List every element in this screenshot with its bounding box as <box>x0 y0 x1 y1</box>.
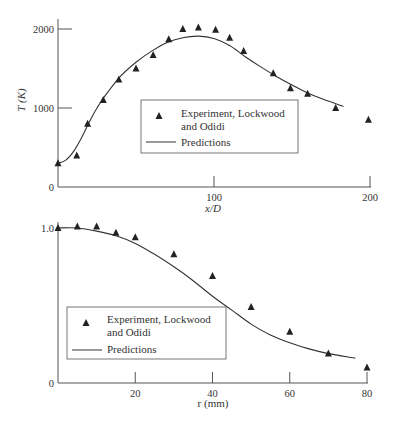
bottom-legend-experiment-line1: Experiment, Lockwood <box>107 313 211 325</box>
y-tick-label: 1000 <box>33 103 54 114</box>
triangle-marker-icon <box>365 116 372 123</box>
triangle-marker-icon <box>100 96 107 103</box>
triangle-marker-icon <box>170 250 177 257</box>
x-tick-label: 20 <box>130 388 141 399</box>
triangle-marker-icon <box>179 25 186 32</box>
x-tick-label: 200 <box>362 192 378 203</box>
triangle-marker-icon <box>248 303 255 310</box>
triangle-marker-icon <box>73 151 80 158</box>
top-legend-experiment-line2: and Odidi <box>181 120 225 132</box>
radial-profile-chart: 2040608001.0 r (mm) Experiment, Lockwood… <box>41 222 372 410</box>
top-x-axis-title: x/D <box>204 202 221 214</box>
triangle-marker-icon <box>74 222 81 229</box>
top-legend-predictions: Predictions <box>181 136 231 148</box>
bottom-x-axis-title: r (mm) <box>198 397 229 410</box>
triangle-marker-icon <box>133 65 140 72</box>
top-y-axis-title: T (K) <box>15 88 28 112</box>
triangle-marker-icon <box>112 229 119 236</box>
triangle-marker-icon <box>209 272 216 279</box>
y-tick-label: 0 <box>49 378 54 389</box>
figure: 100200010002000 T (K) x/D Experiment, Lo… <box>0 0 393 429</box>
y-tick-label: 0 <box>49 182 54 193</box>
x-tick-label: 60 <box>285 388 296 399</box>
triangle-marker-icon <box>304 90 311 97</box>
triangle-marker-icon <box>132 233 139 240</box>
triangle-marker-icon <box>165 35 172 42</box>
triangle-marker-icon <box>364 364 371 371</box>
triangle-marker-icon <box>226 34 233 41</box>
triangle-marker-icon <box>212 26 219 33</box>
triangle-marker-icon <box>286 328 293 335</box>
triangle-marker-icon <box>240 47 247 54</box>
bottom-legend-experiment-line2: and Odidi <box>107 326 151 338</box>
triangle-marker-icon <box>115 76 122 83</box>
top-legend: Experiment, Lockwood and Odidi Predictio… <box>141 100 298 153</box>
y-tick-label: 2000 <box>33 24 54 35</box>
x-tick-label: 80 <box>362 388 373 399</box>
y-tick-label: 1.0 <box>41 223 54 234</box>
top-legend-experiment-line1: Experiment, Lockwood <box>181 107 285 119</box>
temperature-chart: 100200010002000 T (K) x/D Experiment, Lo… <box>15 19 378 214</box>
triangle-marker-icon <box>93 222 100 229</box>
triangle-marker-icon <box>195 23 202 30</box>
bottom-legend: Experiment, Lockwood and Odidi Predictio… <box>67 307 226 359</box>
bottom-legend-predictions: Predictions <box>107 343 157 355</box>
